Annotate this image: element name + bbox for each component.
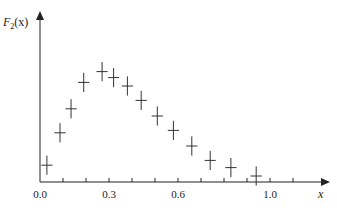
x-tick-label: 0.3 <box>102 188 116 200</box>
data-point <box>54 123 65 142</box>
x-tick-labels: 0.00.30.61.0 <box>33 188 277 200</box>
data-point <box>41 156 52 175</box>
x-tick-label: 0.0 <box>33 188 47 200</box>
data-point <box>65 99 76 118</box>
data-point <box>225 158 236 177</box>
data-point <box>136 91 147 110</box>
x-axis-arrow-icon <box>321 178 330 186</box>
data-point <box>186 136 197 155</box>
axes <box>36 11 330 186</box>
data-point <box>78 73 89 92</box>
data-points <box>41 62 262 186</box>
data-point <box>205 151 216 170</box>
x-ticks <box>63 178 293 182</box>
data-point <box>168 121 179 140</box>
chart: 0.00.30.61.0 x F2(x) <box>0 0 337 208</box>
x-axis-label: x <box>317 187 324 201</box>
data-point <box>251 166 262 185</box>
y-label-arg: (x) <box>14 15 28 29</box>
data-point <box>96 62 107 81</box>
y-axis-label: F2(x) <box>2 15 28 31</box>
data-point <box>122 76 133 95</box>
data-point <box>152 106 163 125</box>
y-axis-arrow-icon <box>36 11 44 20</box>
x-tick-label: 0.6 <box>171 188 185 200</box>
data-point <box>108 68 119 87</box>
x-tick-label: 1.0 <box>263 188 277 200</box>
